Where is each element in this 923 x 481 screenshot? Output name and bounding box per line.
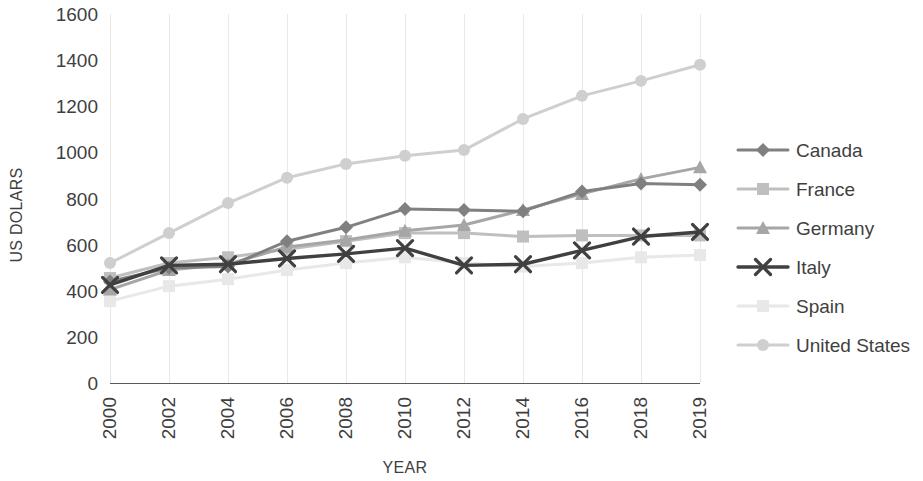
legend-item-label: Canada — [796, 140, 863, 161]
legend-item-label: Germany — [796, 218, 875, 239]
x-axis-tick-label: 2018 — [630, 397, 651, 439]
y-axis-tick-label: 400 — [66, 281, 98, 302]
x-axis-tick-label: 2014 — [512, 397, 533, 440]
chart-canvas: 16001400120010008006004002000 2000200220… — [0, 0, 923, 481]
data-point-marker-square — [517, 231, 529, 243]
y-axis-tick-label: 0 — [87, 373, 98, 394]
data-point-marker-square — [104, 295, 116, 307]
legend-swatch-marker-square — [757, 300, 769, 312]
data-point-marker-circle — [281, 172, 293, 184]
line-chart: 16001400120010008006004002000 2000200220… — [0, 0, 923, 481]
x-axis-tick-label: 2010 — [394, 397, 415, 439]
data-point-marker-square — [694, 249, 706, 261]
y-axis-tick-label: 1400 — [56, 50, 98, 71]
data-point-marker-square — [576, 229, 588, 241]
legend-item-label: United States — [796, 335, 910, 356]
x-axis-tick-label: 2002 — [158, 397, 179, 439]
x-axis-tick-label: 2000 — [99, 397, 120, 439]
data-point-marker-circle — [694, 59, 706, 71]
x-axis-tick-label: 2006 — [276, 397, 297, 439]
data-point-marker-square — [163, 280, 175, 292]
data-point-marker-square — [281, 264, 293, 276]
y-axis-tick-label: 200 — [66, 327, 98, 348]
y-axis-tick-label: 1000 — [56, 142, 98, 163]
data-point-marker-circle — [104, 257, 116, 269]
legend-swatch-marker-square — [757, 183, 769, 195]
data-point-marker-circle — [340, 158, 352, 170]
y-axis-tick-label: 600 — [66, 235, 98, 256]
y-axis-tick-label: 1600 — [56, 4, 98, 25]
legend-swatch-marker-circle — [757, 339, 769, 351]
x-axis-title: YEAR — [383, 459, 428, 476]
data-point-marker-circle — [458, 144, 470, 156]
legend-item-label: Spain — [796, 296, 845, 317]
data-point-marker-circle — [576, 90, 588, 102]
x-axis-tick-label: 2012 — [453, 397, 474, 439]
data-point-marker-circle — [635, 75, 647, 87]
y-axis-tick-label: 800 — [66, 189, 98, 210]
data-point-marker-square — [576, 257, 588, 269]
data-point-marker-square — [222, 273, 234, 285]
x-axis-tick-label: 2008 — [335, 397, 356, 439]
data-point-marker-circle — [399, 150, 411, 162]
data-point-marker-circle — [222, 197, 234, 209]
data-point-marker-circle — [517, 113, 529, 125]
x-axis-tick-label: 2019 — [689, 397, 710, 439]
y-axis-tick-label: 1200 — [56, 96, 98, 117]
x-axis-tick-label: 2016 — [571, 397, 592, 439]
y-axis-title: US DOLARS — [8, 167, 25, 262]
data-point-marker-square — [635, 251, 647, 263]
data-point-marker-circle — [163, 227, 175, 239]
legend-item-label: France — [796, 179, 855, 200]
x-axis-tick-label: 2004 — [217, 397, 238, 440]
legend-item-label: Italy — [796, 257, 831, 278]
